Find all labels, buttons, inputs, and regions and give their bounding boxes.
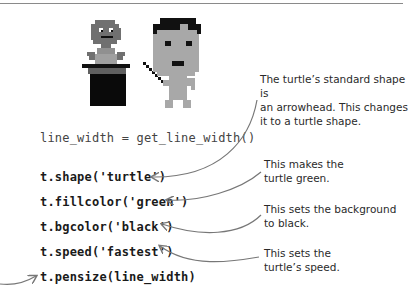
arrow-speed	[160, 246, 259, 262]
arrow-pensize	[0, 276, 36, 285]
annotation-arrows	[0, 0, 414, 290]
arrow-shape	[152, 100, 257, 177]
arrow-bgcolor	[162, 215, 261, 233]
arrow-fillcolor	[167, 172, 261, 200]
